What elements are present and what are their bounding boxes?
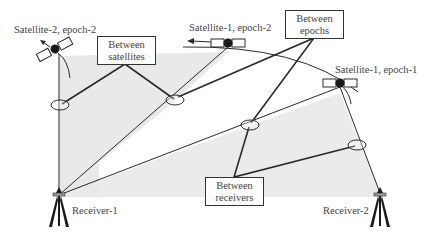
satellite-label: Satellite-1, epoch-1 bbox=[335, 64, 417, 76]
box-line: epochs bbox=[286, 25, 343, 37]
box-line: satellites bbox=[98, 51, 155, 63]
satellite-label: Satellite-2, epoch-2 bbox=[14, 24, 96, 36]
arrowhead-icon bbox=[187, 38, 194, 44]
motion-arrow-icon bbox=[192, 41, 211, 42]
differencing-diagram: Satellite-2, epoch-2 Satellite-1, epoch-… bbox=[0, 0, 432, 245]
box-line: Between bbox=[98, 39, 155, 51]
ellipse-sat1-ep1-rx1 bbox=[241, 120, 259, 130]
between-epochs-box: Between epochs bbox=[285, 10, 344, 39]
box-line: Between bbox=[286, 13, 343, 25]
receiver-label: Receiver-1 bbox=[72, 205, 118, 217]
satellite-icon bbox=[323, 79, 357, 88]
between-receivers-box: Between receivers bbox=[205, 177, 264, 206]
satellite-icon bbox=[211, 39, 245, 48]
between-satellites-box: Between satellites bbox=[97, 36, 156, 65]
ellipse-sat1-ep2-rx1 bbox=[166, 95, 184, 105]
receiver-label: Receiver-2 bbox=[323, 205, 369, 217]
satellite-label: Satellite-1, epoch-2 bbox=[189, 22, 271, 34]
ellipse-sat2-rx1 bbox=[51, 100, 69, 110]
box-line: Between bbox=[206, 180, 263, 192]
box-line: receivers bbox=[206, 192, 263, 204]
arrowhead-icon bbox=[40, 40, 46, 45]
ellipse-sat1-ep1-rx2 bbox=[348, 140, 366, 150]
